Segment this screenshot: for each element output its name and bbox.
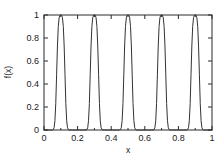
- y-axis-title: f(x): [3, 66, 13, 78]
- y-tick-label: 1: [34, 10, 39, 20]
- y-tick-label: 0: [34, 125, 39, 135]
- y-tick-label: 0.4: [26, 79, 39, 89]
- x-tick-label: 0.2: [71, 133, 84, 143]
- y-tick-label: 0.8: [26, 33, 39, 43]
- chart-figure: 00.20.40.60.81 00.20.40.60.81 x f(x): [0, 0, 223, 163]
- function-plot: 00.20.40.60.81 00.20.40.60.81 x f(x): [0, 0, 223, 163]
- x-tick-label: 0.4: [105, 133, 118, 143]
- x-tick-label: 0.8: [172, 133, 185, 143]
- y-tick-label: 0.2: [26, 102, 39, 112]
- x-tick-label: 1: [209, 133, 214, 143]
- x-tick-label: 0.6: [139, 133, 152, 143]
- y-tick-label: 0.6: [26, 56, 39, 66]
- x-tick-label: 0: [41, 133, 46, 143]
